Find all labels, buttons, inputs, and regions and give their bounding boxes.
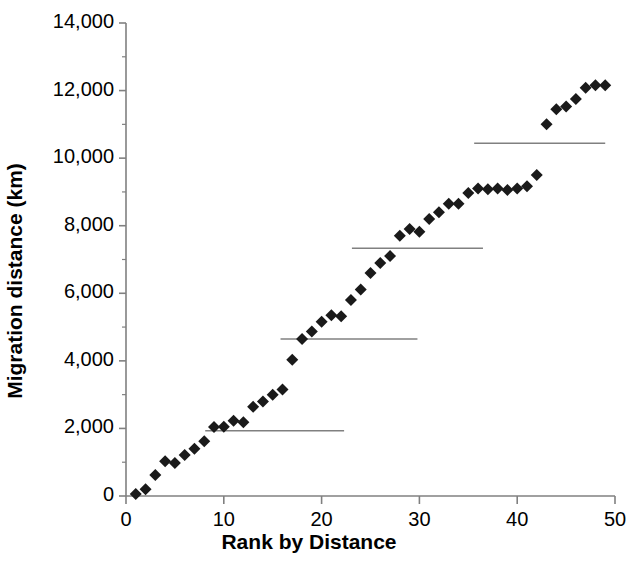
y-tick-label: 6,000 — [0, 280, 114, 303]
data-point-marker — [511, 183, 523, 195]
data-point-marker — [325, 309, 337, 321]
data-point-marker — [247, 401, 259, 413]
data-point-marker — [296, 333, 308, 345]
data-point-marker — [570, 93, 582, 105]
data-point-marker — [267, 389, 279, 401]
data-point-marker — [149, 469, 161, 481]
data-points-layer — [130, 79, 611, 500]
data-point-marker — [394, 230, 406, 242]
data-point-marker — [374, 257, 386, 269]
x-tick-label: 40 — [487, 508, 547, 531]
data-point-marker — [159, 455, 171, 467]
data-point-marker — [501, 184, 513, 196]
y-tick-label: 0 — [0, 483, 114, 506]
data-point-marker — [179, 449, 191, 461]
data-point-marker — [482, 183, 494, 195]
data-point-marker — [345, 294, 357, 306]
data-point-marker — [237, 416, 249, 428]
x-tick-label: 50 — [585, 508, 630, 531]
data-point-marker — [413, 226, 425, 238]
data-point-marker — [316, 316, 328, 328]
y-tick-label: 2,000 — [0, 415, 114, 438]
data-point-marker — [423, 213, 435, 225]
data-point-marker — [365, 267, 377, 279]
data-point-marker — [521, 180, 533, 192]
data-point-marker — [404, 223, 416, 235]
data-point-marker — [433, 206, 445, 218]
y-tick-label: 14,000 — [0, 10, 114, 33]
data-point-marker — [384, 250, 396, 262]
axis-layer — [119, 23, 615, 504]
data-point-marker — [492, 183, 504, 195]
y-tick-label: 12,000 — [0, 78, 114, 101]
data-point-marker — [140, 483, 152, 495]
y-tick-label: 4,000 — [0, 348, 114, 371]
y-tick-label: 8,000 — [0, 213, 114, 236]
data-point-marker — [599, 79, 611, 91]
data-point-marker — [276, 384, 288, 396]
data-point-marker — [335, 310, 347, 322]
data-point-marker — [580, 82, 592, 94]
data-point-marker — [306, 325, 318, 337]
x-tick-label: 0 — [96, 508, 156, 531]
data-point-marker — [550, 103, 562, 115]
data-point-marker — [541, 118, 553, 130]
data-point-marker — [257, 395, 269, 407]
x-tick-label: 20 — [292, 508, 352, 531]
y-tick-label: 10,000 — [0, 145, 114, 168]
data-point-marker — [453, 198, 465, 210]
x-tick-label: 30 — [389, 508, 449, 531]
data-point-marker — [228, 415, 240, 427]
data-point-marker — [130, 488, 142, 500]
data-point-marker — [198, 435, 210, 447]
data-point-marker — [531, 169, 543, 181]
data-point-marker — [355, 284, 367, 296]
data-point-marker — [169, 457, 181, 469]
reference-lines-layer — [205, 143, 605, 431]
x-tick-label: 10 — [194, 508, 254, 531]
data-point-marker — [188, 443, 200, 455]
data-point-marker — [286, 354, 298, 366]
data-point-marker — [560, 100, 572, 112]
